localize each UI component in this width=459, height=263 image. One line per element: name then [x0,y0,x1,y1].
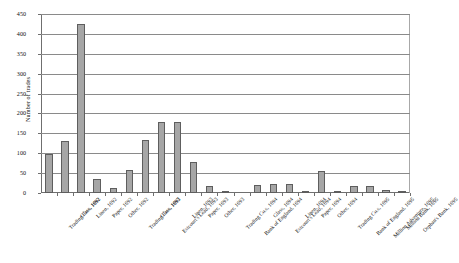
bar [77,24,84,193]
y-axis-tick-label: 300 [0,71,26,77]
gridline [41,153,410,154]
bar [286,184,293,193]
gridline [41,113,410,114]
y-axis-tick-label: 450 [0,11,26,17]
y-axis-tick-mark [38,54,41,55]
y-axis-tick-label: 150 [0,130,26,136]
y-axis-tick-label: 200 [0,110,26,116]
y-axis-tick-mark [38,133,41,134]
bar [45,154,52,193]
y-axis-tick-mark [38,74,41,75]
x-axis-tick-label: Glass, 1693 [159,196,182,219]
gridline [41,34,410,35]
bar [254,185,261,193]
y-axis-title: Number of trades [24,40,31,160]
y-axis-line [41,14,42,193]
bar [350,186,357,193]
bar [174,122,181,193]
gridline [41,54,410,55]
y-axis-tick-label: 400 [0,31,26,37]
y-axis-tick-mark [38,14,41,15]
gridline [41,14,410,15]
gridline [41,173,410,174]
gridline [41,133,410,134]
bar [318,171,325,193]
y-axis-tick-mark [38,94,41,95]
bar [270,184,277,193]
bar [126,170,133,193]
plot-area: 050100150200250300350400450 [41,14,410,193]
x-axis-labels: Trading Co.s, 1692Glass, 1692Linen, 1692… [41,193,421,263]
bar [366,186,373,193]
y-axis-tick-label: 0 [0,190,26,196]
bar [61,141,68,194]
bar [158,122,165,193]
plot-right-border [409,14,410,193]
bar [142,140,149,193]
y-axis-tick-label: 100 [0,150,26,156]
y-axis-tick-label: 250 [0,91,26,97]
y-axis-tick-mark [38,113,41,114]
y-axis-tick-mark [38,173,41,174]
gridline [41,74,410,75]
bar [206,186,213,193]
y-axis-tick-label: 50 [0,170,26,176]
y-axis-tick-label: 350 [0,51,26,57]
y-axis-tick-mark [38,34,41,35]
bar [93,179,100,193]
y-axis-tick-mark [38,153,41,154]
gridline [41,94,410,95]
bar [190,162,197,193]
